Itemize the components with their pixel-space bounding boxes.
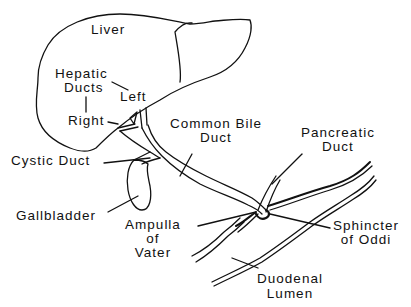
duodenum-upper-wall-c [192,218,244,262]
label-ampulla-vater: Vater [120,246,186,260]
label-sphincter: Sphincter [326,219,406,233]
leader-sphincter [270,214,330,228]
label-of-oddi: of Oddi [326,233,406,247]
label-hepatic: Hepatic [55,67,108,81]
label-cystic-duct: Cystic Duct [11,154,90,168]
label-duodenal: Duodenal [250,272,330,286]
label-ducts: Ducts [64,81,104,95]
label-ampulla: Ampulla [120,218,186,232]
label-common-bile: Common Bile [170,117,262,131]
label-left: Left [120,90,147,104]
leader-cystic [104,158,150,163]
liver-lobe-line [175,23,192,82]
label-gallbladder: Gallbladder [16,209,96,223]
biliary-anatomy-diagram: Liver Hepatic Ducts Left Right Common Bi… [0,0,411,307]
label-ampulla-of: of [120,232,186,246]
gallbladder-outline [127,160,150,210]
leader-pancreatic [272,154,302,184]
label-common-bile-duct: Duct [200,131,232,145]
label-pancreatic-duct: Duct [288,140,388,154]
leader-common-bile [180,154,192,176]
label-liver: Liver [91,23,125,37]
label-right: Right [68,114,105,128]
leader-right [108,122,118,124]
label-pancreatic: Pancreatic [288,126,388,140]
label-lumen: Lumen [250,287,330,301]
hepatic-duct-left-wall [120,131,160,158]
